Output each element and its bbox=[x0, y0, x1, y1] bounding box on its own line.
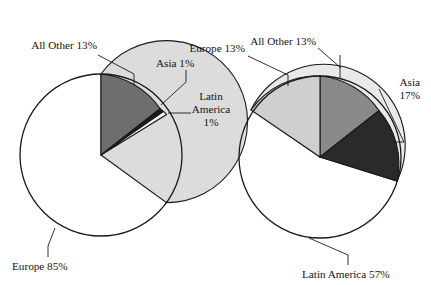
left-label-europe: Europe 85% bbox=[12, 260, 68, 272]
right-label-asia: Asia 17% bbox=[399, 76, 420, 101]
left-label-asia: Asia 1% bbox=[156, 57, 194, 69]
left-label-latin-america-line3: 1% bbox=[204, 116, 219, 128]
right-label-latin-america: Latin America 57% bbox=[302, 268, 390, 280]
right-label-europe: Europe 13% bbox=[189, 42, 245, 54]
left-label-latin-america-line2: America bbox=[192, 103, 231, 115]
pie-charts-figure: All Other 13% Asia 1% Latin America 1% E… bbox=[0, 0, 431, 285]
right-label-asia-line2: 17% bbox=[399, 89, 420, 101]
left-label-latin-america-line1: Latin bbox=[199, 90, 223, 102]
right-label-all-other: All Other 13% bbox=[250, 35, 316, 47]
left-label-all-other: All Other 13% bbox=[31, 39, 97, 51]
right-label-asia-line1: Asia bbox=[399, 76, 420, 88]
